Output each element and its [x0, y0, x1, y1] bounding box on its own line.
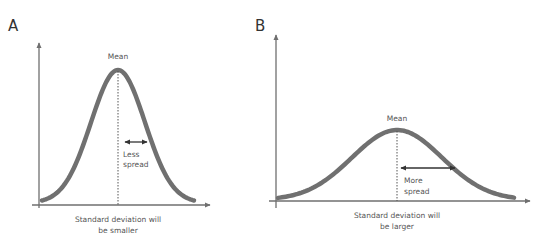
panel-a-caption-line2: be smaller	[98, 226, 138, 235]
panel-b-label: B	[255, 17, 265, 35]
panel-b-caption-line2: be larger	[380, 222, 415, 231]
panel-a-mean-label: Mean	[108, 52, 129, 61]
panel-b-spread-label-line2: spread	[404, 187, 430, 196]
panel-b: B Mean More spread Standard deviation wi…	[255, 17, 530, 231]
panel-a-label: A	[8, 17, 19, 35]
panel-b-distribution-curve	[278, 130, 514, 198]
panel-a-spread-label-line1: Less	[123, 150, 140, 159]
panel-b-mean-label: Mean	[387, 114, 408, 123]
panel-a-caption-line1: Standard deviation will	[75, 215, 161, 224]
panel-b-spread-label-line1: More	[404, 176, 423, 185]
panel-a-spread-label-line2: spread	[123, 160, 149, 169]
panel-b-caption-line1: Standard deviation will	[354, 211, 440, 220]
panel-a: A Mean Less spread Standard deviation wi…	[8, 17, 210, 235]
normal-distribution-comparison-figure: A Mean Less spread Standard deviation wi…	[0, 0, 542, 249]
